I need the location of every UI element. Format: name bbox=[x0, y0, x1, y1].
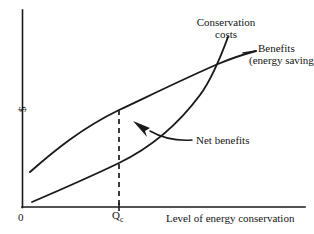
qc-tick-label: Qc bbox=[112, 209, 124, 225]
chart-figure: $ Level of energy conservation 0 Qc Cons… bbox=[0, 0, 314, 234]
x-axis-label: Level of energy conservation bbox=[166, 212, 294, 224]
conservation-costs-annotation-line2: costs bbox=[215, 28, 237, 40]
conservation-costs-curve bbox=[32, 37, 228, 202]
benefits-curve bbox=[30, 51, 256, 172]
benefits-leader-line bbox=[243, 51, 256, 53]
chart-canvas bbox=[0, 0, 314, 234]
origin-tick-label: 0 bbox=[18, 211, 24, 223]
qc-tick-label-subscript: c bbox=[120, 215, 124, 224]
benefits-annotation: Benefits (energy savings) bbox=[258, 42, 314, 67]
benefits-annotation-line2: (energy savings) bbox=[249, 54, 314, 66]
qc-tick-label-main: Q bbox=[112, 209, 120, 221]
conservation-costs-annotation: Conservation costs bbox=[186, 16, 266, 41]
y-axis-label-text: $ bbox=[16, 107, 28, 113]
benefits-annotation-line1: Benefits bbox=[258, 42, 295, 54]
net-benefits-arrowhead-icon bbox=[133, 121, 150, 137]
y-axis-label: $ bbox=[6, 91, 18, 97]
conservation-costs-annotation-line1: Conservation bbox=[197, 16, 256, 28]
net-benefits-annotation: Net benefits bbox=[196, 134, 249, 146]
